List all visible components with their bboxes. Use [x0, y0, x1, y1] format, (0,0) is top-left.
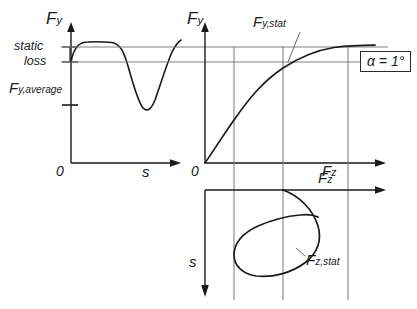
fy-average-label: Fy,average	[9, 80, 62, 95]
bottom-x-axis-arrowhead	[375, 186, 386, 194]
left-x-axis-arrowhead	[170, 159, 181, 167]
bottom-s-axis-arrowhead	[201, 285, 209, 297]
static-label: static	[14, 40, 43, 53]
left-x-axis-label: s	[142, 164, 150, 179]
fz-stat-leader-line	[296, 248, 305, 256]
middle-panel-group	[201, 22, 386, 300]
middle-x-axis-arrowhead	[375, 159, 386, 167]
left-curve-fy-of-s	[71, 40, 181, 110]
bottom-x-axis-label: Fz	[318, 170, 332, 185]
slip-angle-annotation: α = 1°	[360, 51, 411, 72]
fy-stat-curve-label: Fy,stat	[253, 14, 286, 29]
fz-stat-curve-label: Fz,stat	[306, 252, 340, 267]
left-y-axis-arrowhead	[67, 22, 75, 32]
middle-y-axis-label: Fy	[187, 10, 203, 27]
figure-root: Fy 0 s static loss Fy,average Fy 0 Fz Fy…	[0, 0, 417, 309]
middle-origin-label: 0	[191, 164, 199, 178]
bottom-s-axis-label: s	[189, 254, 197, 269]
left-panel-group	[62, 22, 181, 167]
left-y-axis-label: Fy	[46, 10, 62, 27]
middle-curve-fy-stat	[205, 45, 375, 163]
left-origin-label: 0	[56, 164, 64, 178]
bottom-panel-group	[201, 186, 386, 297]
loss-label: loss	[24, 55, 46, 68]
figure-svg	[0, 0, 417, 309]
